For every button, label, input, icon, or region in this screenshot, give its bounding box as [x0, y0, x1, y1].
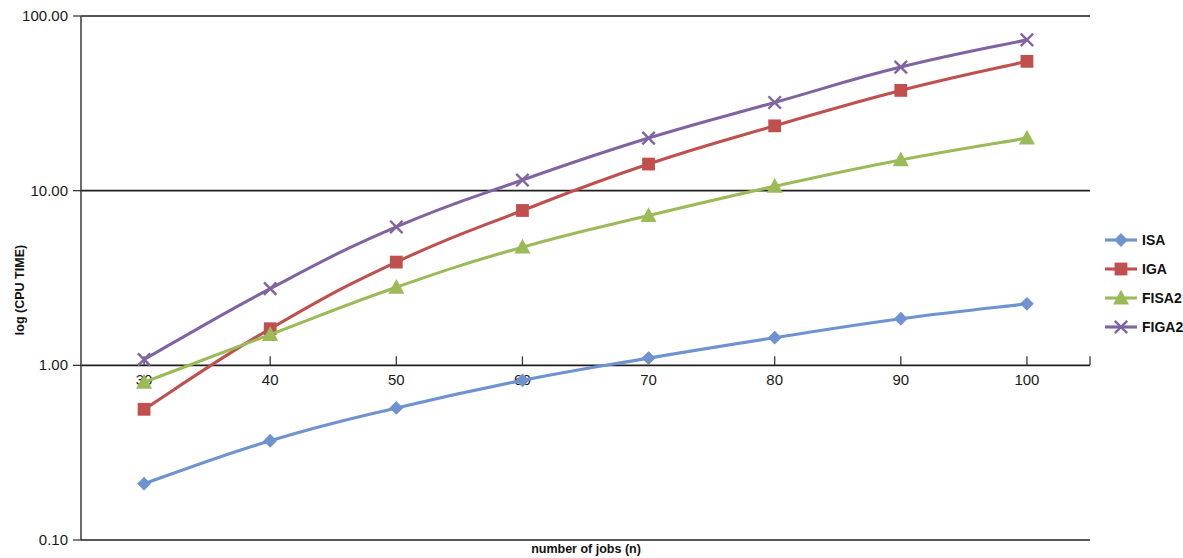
- data-point-marker-square: [517, 205, 527, 215]
- data-point-marker-diamond: [1022, 299, 1032, 309]
- legend-item-iga[interactable]: IGA: [1105, 261, 1167, 277]
- chart-legend: ISAIGAFISA2FIGA2: [1105, 232, 1183, 335]
- data-point-marker-diamond: [391, 403, 401, 413]
- legend-label: IGA: [1142, 261, 1167, 277]
- series-fisa2: [138, 132, 1033, 387]
- legend-label: FIGA2: [1142, 319, 1183, 335]
- x-tick-label: 90: [892, 371, 909, 388]
- x-tick-label: 40: [262, 371, 279, 388]
- data-point-marker-square: [139, 404, 149, 414]
- series-iga: [139, 56, 1032, 414]
- y-tick-label: 10.00: [30, 182, 68, 199]
- y-axis-title: log (CPU TIME): [13, 245, 27, 335]
- data-point-marker-triangle: [516, 241, 528, 252]
- legend-item-figa2[interactable]: FIGA2: [1105, 319, 1183, 335]
- data-point-marker-triangle: [643, 210, 655, 221]
- data-point-marker-diamond: [139, 479, 149, 489]
- legend-label: ISA: [1142, 232, 1165, 248]
- data-point-marker-square: [1022, 56, 1032, 66]
- data-point-marker-diamond: [1116, 235, 1126, 245]
- data-series-group: [138, 34, 1033, 489]
- series-line: [144, 61, 1027, 409]
- x-tick-label: 50: [388, 371, 405, 388]
- x-tick-label: 100: [1014, 371, 1039, 388]
- series-line: [144, 138, 1027, 382]
- data-point-marker-diamond: [769, 332, 779, 342]
- y-tick-label: 0.10: [39, 531, 68, 548]
- legend-item-isa[interactable]: ISA: [1105, 232, 1165, 248]
- chart-container: 100.0010.001.000.10 30405060708090100 lo…: [0, 0, 1183, 558]
- data-point-marker-cross: [390, 221, 402, 233]
- gridlines: [81, 16, 1090, 540]
- x-tick-label: 80: [766, 371, 783, 388]
- x-axis-title: number of jobs (n): [531, 542, 641, 556]
- data-point-marker-square: [896, 85, 906, 95]
- data-point-marker-square: [643, 159, 653, 169]
- data-point-marker-square: [769, 121, 779, 131]
- x-tick-label: 70: [640, 371, 657, 388]
- data-point-marker-triangle: [895, 154, 907, 165]
- y-axis-labels: 100.0010.001.000.10: [22, 7, 81, 548]
- data-point-marker-diamond: [265, 436, 275, 446]
- data-point-marker-triangle: [1115, 292, 1127, 303]
- y-tick-label: 100.00: [22, 7, 68, 24]
- legend-item-fisa2[interactable]: FISA2: [1105, 290, 1182, 306]
- x-axis-labels: 30405060708090100: [136, 371, 1040, 388]
- data-point-marker-cross: [264, 282, 276, 294]
- data-point-marker-square: [1116, 264, 1126, 274]
- line-chart: 100.0010.001.000.10 30405060708090100 lo…: [0, 0, 1183, 558]
- data-point-marker-triangle: [390, 281, 402, 292]
- data-point-marker-square: [391, 257, 401, 267]
- y-tick-label: 1.00: [39, 356, 68, 373]
- data-point-marker-diamond: [643, 353, 653, 363]
- legend-label: FISA2: [1142, 290, 1182, 306]
- data-point-marker-triangle: [769, 180, 781, 191]
- data-point-marker-diamond: [896, 313, 906, 323]
- data-point-marker-triangle: [1021, 132, 1033, 143]
